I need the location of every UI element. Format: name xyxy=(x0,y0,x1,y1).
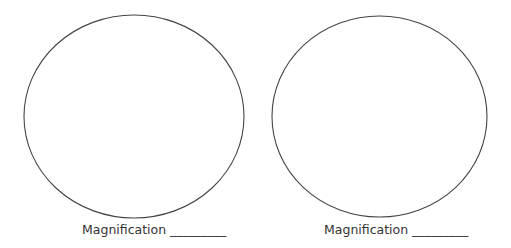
left-field-of-view-circle xyxy=(24,15,244,218)
left-magnification-blank[interactable]: _________ xyxy=(170,222,226,237)
right-magnification-label: Magnification _________ xyxy=(324,222,468,238)
right-magnification-blank[interactable]: _________ xyxy=(412,222,468,237)
microscope-fields xyxy=(0,0,511,248)
left-magnification-text: Magnification xyxy=(82,222,166,237)
left-magnification-label: Magnification _________ xyxy=(82,222,226,238)
right-field-of-view-circle xyxy=(272,16,487,217)
right-magnification-text: Magnification xyxy=(324,222,408,237)
